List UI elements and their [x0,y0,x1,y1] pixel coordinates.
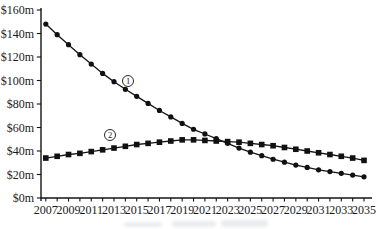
series-1-point [361,174,366,179]
series-1-point [134,94,139,99]
series-1-point [180,121,185,126]
series-2-point [100,147,106,153]
scan-artifact [124,222,162,227]
y-tick-label: $80m [7,97,35,111]
y-tick-label: $0m [13,191,35,205]
x-tick-label: 2013 [102,203,126,217]
chart: $0m$20m$40m$60m$80m$100m$120m$140m$160m2… [0,0,378,229]
series-1-point [316,167,321,172]
series-2-point [225,139,231,145]
x-tick-label: 2033 [329,203,353,217]
x-tick-label: 2017 [147,203,171,217]
series-1-point [145,101,150,106]
x-tick-label: 2021 [193,203,217,217]
series-1-annotation: 1 [122,75,134,87]
series-1-point [327,169,332,174]
series-2-point [179,137,185,143]
y-tick-label: $60m [7,121,35,135]
series-2-point [282,145,288,151]
series-2-point [350,155,356,161]
series-1-point [339,171,344,176]
series-1-point [111,79,116,84]
series-2-point [88,149,94,155]
series-1-point [293,163,298,168]
series-2-annotation: 2 [104,129,116,141]
y-tick-label: $20m [7,168,35,182]
x-tick-label: 2029 [284,203,308,217]
series-1-point [123,87,128,92]
series-1-point [77,52,82,57]
series-1-point [282,160,287,165]
series-2-point [361,158,367,164]
series-2-point [259,142,265,148]
series-2-point [43,155,49,161]
y-tick-label: $140m [1,27,35,41]
x-tick-label: 2015 [125,203,149,217]
series-1-point [202,131,207,136]
series-1-point [271,157,276,162]
series-1-point [259,153,264,158]
y-tick-label: $160m [1,3,35,17]
x-tick-label: 2031 [307,203,331,217]
series-1-point [55,32,60,37]
series-2-point [123,144,129,150]
series-2-point [202,138,208,144]
series-2-point [157,139,163,145]
y-tick-label: $40m [7,144,35,158]
series-2-point [236,139,242,145]
series-2-point [327,152,333,158]
series-2-point [270,143,276,149]
series-2-point [293,146,299,152]
series-2-point [145,141,151,147]
series-1-point [66,42,71,47]
series-1-point [191,127,196,132]
series-1-point [248,150,253,155]
series-2-point [77,151,83,157]
series-2-point [338,153,344,159]
series-1-point [157,108,162,113]
chart-canvas: $0m$20m$40m$60m$80m$100m$120m$140m$160m2… [0,0,378,229]
x-tick-label: 2007 [34,203,58,217]
x-tick-label: 2009 [57,203,81,217]
series-1-point [100,71,105,76]
series-2-point [304,148,310,154]
series-2-point [248,141,254,147]
series-2-point [168,138,174,144]
series-2-point [134,142,140,148]
series-1-point [236,145,241,150]
x-tick-label: 2023 [216,203,240,217]
series-1-point [305,165,310,170]
scan-artifact [221,220,268,227]
series-2-point [191,137,197,143]
y-tick-label: $120m [1,50,35,64]
series-2-point [316,150,322,156]
x-tick-label: 2027 [261,203,285,217]
series-1-point [350,172,355,177]
series-1-point [89,61,94,66]
scan-artifact [172,221,216,227]
y-tick-label: $100m [1,74,35,88]
x-tick-label: 2019 [170,203,194,217]
series-2-point [54,153,60,159]
series-1-point [43,22,48,27]
x-tick-label: 2025 [238,203,262,217]
x-tick-label: 2011 [79,203,103,217]
series-2-point [111,145,117,151]
x-tick-label: 2035 [352,203,376,217]
series-2-point [66,152,72,158]
series-2-point [213,138,219,144]
series-1-point [168,114,173,119]
